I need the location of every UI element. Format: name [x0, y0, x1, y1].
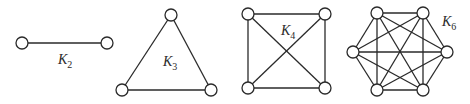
- vertex-k3-0: [165, 9, 177, 21]
- edge-k6-2-3: [423, 52, 447, 90]
- edge-k6-0-5: [353, 13, 377, 52]
- edge-k3-0-1: [122, 15, 171, 90]
- complete-graphs-diagram: K2 K3 K4 K6: [0, 0, 470, 104]
- vertex-k2-0: [16, 37, 28, 49]
- vertex-k6-2: [441, 46, 453, 58]
- graph-k2: [16, 37, 113, 49]
- label-k4: K4: [280, 23, 295, 41]
- vertex-k3-1: [116, 84, 128, 96]
- vertex-k4-3: [242, 82, 254, 94]
- vertex-k6-1: [417, 7, 429, 19]
- graph-k4: [242, 8, 331, 94]
- vertex-k3-2: [205, 84, 217, 96]
- vertex-k6-3: [417, 84, 429, 96]
- vertex-k6-0: [371, 7, 383, 19]
- label-k2: K2: [57, 52, 72, 70]
- vertex-k2-1: [101, 37, 113, 49]
- vertex-k6-5: [347, 46, 359, 58]
- graph-k3: [116, 9, 217, 96]
- vertex-k4-0: [242, 8, 254, 20]
- label-k6: K6: [441, 14, 456, 32]
- edge-k3-0-2: [171, 15, 211, 90]
- label-k3: K3: [162, 54, 177, 72]
- graph-k6: [347, 7, 453, 96]
- vertex-k4-1: [319, 8, 331, 20]
- vertex-k6-4: [371, 84, 383, 96]
- edge-k6-4-5: [353, 52, 377, 90]
- vertex-k4-2: [319, 82, 331, 94]
